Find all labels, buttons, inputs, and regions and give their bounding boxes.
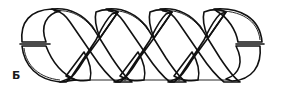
- ribbon-helix-graphic: [0, 0, 284, 92]
- ribbon-front-surfaces: [22, 9, 262, 82]
- figure-label: Б: [12, 70, 20, 82]
- helix-diagram: Б: [0, 0, 284, 92]
